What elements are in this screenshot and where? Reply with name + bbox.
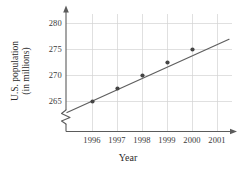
x-axis-title: Year [78,152,178,163]
x-axis-arrowhead [230,129,237,135]
y-axis-title: U.S. population (in millions) [10,11,32,131]
ytick-label-275: 275 [36,45,62,54]
horizontal-gridlines [66,24,232,102]
data-point-1996 [90,99,94,103]
population-line-chart: 280 275 270 265 1996 1997 1998 1999 2000… [0,0,246,171]
data-point-2000 [190,47,194,51]
x-axis [66,129,237,135]
y-axis [62,6,71,132]
data-point-1999 [165,60,169,64]
y-axis-title-line-1: U.S. population [10,11,21,131]
data-point-1998 [140,73,144,77]
ytick-label-270: 270 [36,71,62,80]
xtick-label-2001: 2001 [202,136,232,145]
ytick-label-280: 280 [36,19,62,28]
y-axis-title-line-2: (in millions) [21,11,32,131]
y-axis-arrowhead [63,6,69,13]
ytick-label-265: 265 [36,97,62,106]
data-point-1997 [115,86,119,90]
